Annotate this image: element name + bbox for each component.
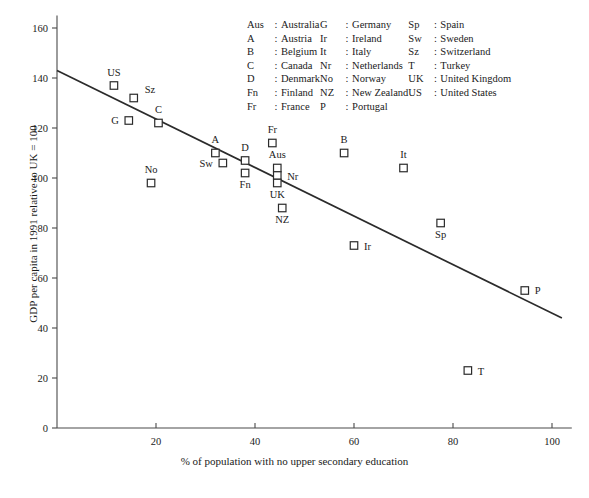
data-point[interactable]: P [521,285,541,296]
y-tick-label: 40 [38,323,49,334]
data-point[interactable]: No [145,164,158,187]
point-label-nr: Nr [287,171,299,182]
legend-abbr: No [320,72,342,86]
legend-country-name [440,100,511,114]
y-tick-label: 20 [38,373,49,384]
point-label-uk: UK [270,189,286,200]
legend-country-name: Australia [281,18,320,32]
point-label-b: B [341,134,348,145]
point-marker-sp[interactable] [437,219,445,227]
point-marker-nr[interactable] [274,172,282,180]
x-axis-label: % of population with no upper secondary … [0,455,589,467]
legend-abbr: C [247,59,271,73]
legend-colon: : [271,45,281,59]
legend-abbr: D [247,72,271,86]
point-label-a: A [212,134,220,145]
point-label-ir: Ir [364,241,371,252]
legend-colon: : [271,59,281,73]
legend-colon: : [430,86,440,100]
point-marker-it[interactable] [400,164,408,172]
point-label-c: C [155,104,162,115]
point-marker-us[interactable] [110,82,118,90]
legend-row: Fn:FinlandNZ:New ZealandUS:United States [247,86,511,100]
point-marker-p[interactable] [521,287,529,295]
data-point[interactable]: NZ [275,204,289,225]
legend-abbr [408,100,430,114]
point-marker-aus[interactable] [274,164,282,172]
y-tick-label: 140 [32,73,48,84]
data-point[interactable]: A [212,134,220,157]
legend-abbr: Nr [320,59,342,73]
legend-country-name: Ireland [352,32,408,46]
point-marker-no[interactable] [147,179,155,187]
legend-country-name: Netherlands [352,59,408,73]
x-tick-label: 100 [544,436,560,447]
point-marker-uk[interactable] [274,179,282,187]
point-label-sp: Sp [435,229,446,240]
point-marker-nz[interactable] [278,204,286,212]
legend-country-name: Canada [281,59,320,73]
point-label-p: P [535,285,541,296]
point-marker-fn[interactable] [241,169,249,177]
legend-abbr: Sp [408,18,430,32]
legend-table: Aus:AustraliaG:GermanySp:SpainA:AustriaI… [247,18,511,113]
legend-country-name: New Zealand [352,86,408,100]
legend-colon: : [342,45,352,59]
x-tick-label: 60 [349,436,360,447]
legend-colon: : [430,18,440,32]
point-marker-t[interactable] [464,367,472,375]
chart-page: 02040608010012014016020406080100 USSzGCN… [0,0,589,498]
legend-colon: : [342,72,352,86]
legend-colon: : [271,72,281,86]
data-point[interactable]: Fn [240,169,252,190]
legend-abbr: T [408,59,430,73]
data-point[interactable]: Sw [199,158,226,169]
legend-country-name: France [281,100,320,114]
point-marker-g[interactable] [125,117,133,125]
legend-row: B:BelgiumIt:ItalySz:Switzerland [247,45,511,59]
legend-country-name: Belgium [281,45,320,59]
point-label-aus: Aus [269,149,286,160]
data-point[interactable]: Ir [350,241,371,252]
point-marker-b[interactable] [340,149,348,157]
y-tick-label: 80 [38,223,49,234]
legend-colon: : [430,32,440,46]
legend-abbr: Ir [320,32,342,46]
data-point[interactable]: Aus [269,149,286,172]
data-point[interactable]: C [155,104,163,127]
data-point[interactable]: It [400,149,408,172]
point-marker-a[interactable] [212,149,220,157]
data-point[interactable]: G [111,115,132,126]
legend-country-name: Norway [352,72,408,86]
point-marker-sw[interactable] [219,159,227,167]
legend-abbr: UK [408,72,430,86]
legend-abbr: Aus [247,18,271,32]
data-point[interactable]: Fr [268,124,278,147]
legend-colon: : [342,59,352,73]
data-point[interactable]: US [107,67,121,90]
point-marker-fr[interactable] [269,139,277,147]
point-marker-ir[interactable] [350,242,358,250]
legend-abbr: Sw [408,32,430,46]
legend-colon: : [342,86,352,100]
data-point[interactable]: D [241,142,249,165]
legend-country-name: Turkey [440,59,511,73]
point-marker-d[interactable] [241,157,249,165]
legend-country-name: Germany [352,18,408,32]
point-marker-c[interactable] [155,119,163,127]
legend-colon: : [271,32,281,46]
point-label-it: It [400,149,406,160]
legend-abbr: B [247,45,271,59]
data-point[interactable]: B [340,134,348,157]
point-label-t: T [478,366,485,377]
y-tick-label: 160 [32,23,48,34]
data-point[interactable]: Sz [130,84,156,102]
data-point[interactable]: T [464,366,485,377]
data-point[interactable]: UK [270,179,286,200]
point-label-fn: Fn [240,179,252,190]
legend-abbr: A [247,32,271,46]
point-marker-sz[interactable] [130,94,138,102]
data-point[interactable]: Sp [435,219,446,240]
legend-abbr: Fr [247,100,271,114]
legend-country-name: Finland [281,86,320,100]
